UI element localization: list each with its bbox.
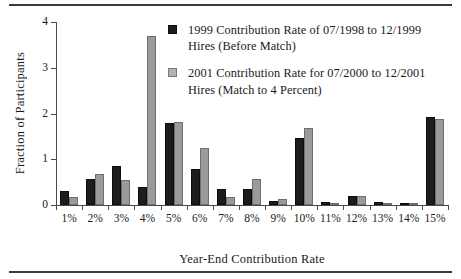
bar — [426, 117, 435, 205]
y-axis-tick — [51, 68, 56, 69]
x-axis-tick-label: 11% — [320, 213, 341, 225]
legend-line-1: 2001 Contribution Rate for 07/2000 to 12… — [188, 65, 453, 81]
bar — [269, 201, 278, 205]
y-axis-tick-label: 1 — [42, 154, 48, 166]
bar — [174, 122, 183, 205]
x-axis-tick-label: 7% — [218, 213, 233, 225]
x-axis-tick-label: 1% — [61, 213, 76, 225]
y-axis-tick — [51, 114, 56, 115]
bar — [138, 187, 147, 205]
legend-line-2: Hires (Match to 4 Percent) — [188, 82, 453, 98]
bar — [304, 128, 313, 205]
x-axis-line — [56, 205, 448, 206]
x-axis-tick-label: 4% — [140, 213, 155, 225]
x-axis-tick — [187, 205, 188, 210]
y-axis-label-text: Fraction of Participants — [13, 52, 28, 174]
x-axis-tick-label: 10% — [294, 213, 315, 225]
x-axis-tick-label: 12% — [346, 213, 367, 225]
x-axis-tick-label: 8% — [244, 213, 259, 225]
figure-container: Fraction of Participants 012341%2%3%4%5%… — [0, 0, 461, 279]
x-axis-tick — [448, 205, 449, 210]
bar — [217, 189, 226, 205]
bar — [357, 196, 366, 205]
x-axis-tick — [239, 205, 240, 210]
x-axis-tick — [422, 205, 423, 210]
bar — [95, 174, 104, 205]
legend-item-label: 1999 Contribution Rate of 07/1998 to 12/… — [188, 22, 453, 54]
x-axis-tick-label: 14% — [398, 213, 419, 225]
x-axis-tick — [56, 205, 57, 210]
legend-item: 1999 Contribution Rate of 07/1998 to 12/… — [168, 22, 453, 54]
x-axis-tick — [343, 205, 344, 210]
bar-group — [112, 22, 130, 205]
black-square-icon — [168, 25, 177, 34]
bar-group — [138, 22, 156, 205]
x-axis-tick — [82, 205, 83, 210]
legend-line-2: Hires (Before Match) — [188, 38, 453, 54]
bar — [295, 138, 304, 205]
x-axis-tick — [396, 205, 397, 210]
bar — [400, 203, 409, 205]
x-axis-tick — [134, 205, 135, 210]
bar — [112, 166, 121, 205]
y-axis-tick — [51, 159, 56, 160]
bar — [330, 203, 339, 205]
y-axis-tick-label: 2 — [42, 108, 48, 120]
legend-item: 2001 Contribution Rate for 07/2000 to 12… — [168, 65, 453, 97]
x-axis-tick — [265, 205, 266, 210]
y-axis-tick-label: 0 — [42, 199, 48, 211]
legend-line-1: 1999 Contribution Rate of 07/1998 to 12/… — [188, 22, 453, 38]
y-axis-tick-label: 4 — [42, 16, 48, 28]
x-axis-tick-label: 9% — [270, 213, 285, 225]
x-axis-tick-label: 5% — [166, 213, 181, 225]
bottom-rule — [9, 271, 452, 273]
bar — [69, 197, 78, 205]
bar — [278, 199, 287, 205]
bar — [121, 180, 130, 205]
bar — [409, 203, 418, 205]
bar — [374, 202, 383, 205]
bar — [165, 123, 174, 205]
x-axis-label: Year-End Contribution Rate — [56, 252, 448, 267]
bar — [243, 189, 252, 205]
bar-group — [60, 22, 78, 205]
bar — [252, 179, 261, 205]
x-axis-tick — [317, 205, 318, 210]
y-axis-tick — [51, 22, 56, 23]
x-axis-tick — [291, 205, 292, 210]
x-axis-tick-label: 3% — [114, 213, 129, 225]
bar — [435, 119, 444, 205]
x-axis-tick — [370, 205, 371, 210]
bar — [147, 36, 156, 205]
y-axis-label: Fraction of Participants — [12, 22, 28, 205]
bar — [60, 191, 69, 205]
legend-item-label: 2001 Contribution Rate for 07/2000 to 12… — [188, 65, 453, 97]
bar — [200, 148, 209, 205]
x-axis-tick-label: 15% — [424, 213, 445, 225]
bar — [226, 197, 235, 205]
bar — [191, 169, 200, 205]
x-axis-tick — [213, 205, 214, 210]
chart-legend: 1999 Contribution Rate of 07/1998 to 12/… — [168, 22, 453, 109]
x-axis-tick — [161, 205, 162, 210]
y-axis-line — [56, 22, 57, 205]
x-axis-tick-label: 6% — [192, 213, 207, 225]
x-axis-tick — [108, 205, 109, 210]
bar — [348, 196, 357, 205]
bar — [383, 203, 392, 205]
bar-group — [86, 22, 104, 205]
x-axis-tick-label: 13% — [372, 213, 393, 225]
top-rule — [9, 4, 452, 6]
y-axis-tick-label: 3 — [42, 62, 48, 74]
grey-square-icon — [168, 68, 177, 77]
bar — [86, 179, 95, 205]
x-axis-tick-label: 2% — [88, 213, 103, 225]
bar — [321, 202, 330, 205]
